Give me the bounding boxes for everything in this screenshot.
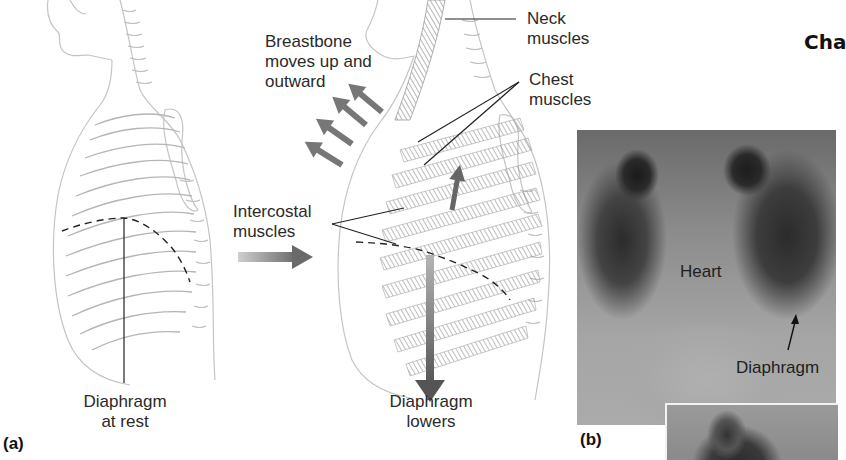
label-diaphragm-at-rest: Diaphragm at rest [72,392,178,432]
label-heart: Heart [680,262,722,282]
label-neck-line2: muscles [527,29,589,49]
label-intercostal-line1: Intercostal [233,202,311,222]
torso-at-rest-drawing [47,0,215,385]
label-diaphragm-lowers: Diaphragm lowers [378,392,484,432]
label-breastbone: Breastbone moves up and outward [265,32,372,92]
label-diaphragm-lowers-line1: Diaphragm [378,392,484,412]
transition-arrow [238,245,313,269]
panel-a-tag: (a) [3,434,24,454]
label-xray-diaphragm: Diaphragm [736,358,819,378]
label-breastbone-line2: moves up and [265,52,372,72]
neck-muscle-drawing [395,0,445,120]
label-diaphragm-rest-line1: Diaphragm [72,392,178,412]
label-intercostal-line2: muscles [233,222,311,242]
label-diaphragm-lowers-line2: lowers [378,412,484,432]
label-chest-muscles: Chest muscles [529,70,591,110]
label-chest-line1: Chest [529,70,591,90]
xray-inset-image [665,403,838,460]
chapter-heading: Cha [804,30,846,54]
label-chest-line2: muscles [529,90,591,110]
label-neck-muscles: Neck muscles [527,9,589,49]
panel-b-tag: (b) [580,430,602,450]
label-diaphragm-rest-line2: at rest [72,412,178,432]
label-breastbone-line3: outward [265,72,372,92]
label-neck-line1: Neck [527,9,589,29]
label-breastbone-line1: Breastbone [265,32,372,52]
label-intercostal-muscles: Intercostal muscles [233,202,311,242]
